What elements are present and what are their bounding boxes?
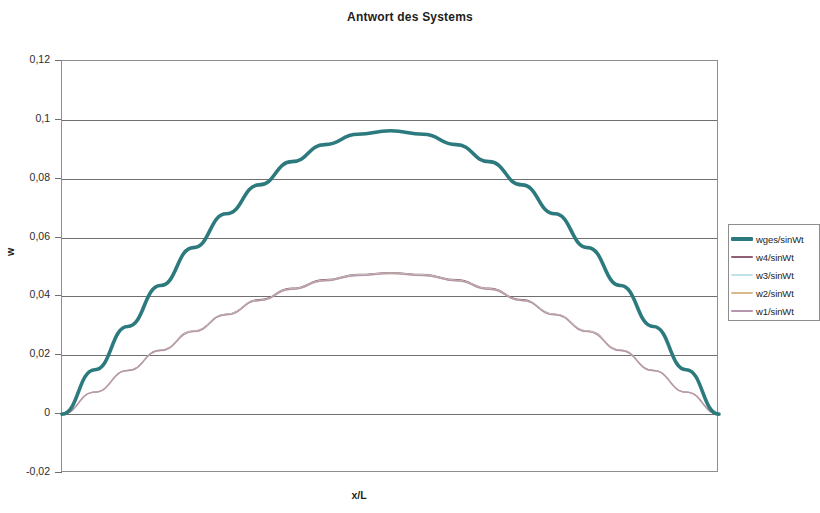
legend-label: w2/sinWt bbox=[756, 288, 794, 299]
y-axis-tick-label: 0,08 bbox=[2, 171, 50, 183]
legend-color-swatch bbox=[731, 310, 753, 312]
y-axis-tick bbox=[55, 472, 62, 473]
legend-color-swatch bbox=[731, 237, 753, 240]
series-line bbox=[62, 273, 719, 415]
y-axis-tick-label: 0,12 bbox=[2, 53, 50, 65]
chart-container: Antwort des Systems w x/L 0,120,10,080,0… bbox=[0, 0, 820, 513]
legend-label: w4/sinWt bbox=[756, 252, 794, 263]
legend-item[interactable]: w2/sinWt bbox=[731, 284, 819, 302]
legend-label: w1/sinWt bbox=[756, 306, 794, 317]
legend-label: wges/sinWt bbox=[756, 234, 804, 245]
legend-item[interactable]: wges/sinWt bbox=[731, 230, 819, 248]
y-axis-tick-label: 0,06 bbox=[2, 230, 50, 242]
y-axis-tick-label: 0,02 bbox=[2, 347, 50, 359]
legend-label: w3/sinWt bbox=[756, 270, 794, 281]
series-line bbox=[62, 274, 719, 414]
legend-color-swatch bbox=[731, 256, 753, 258]
y-axis-tick-label: 0,04 bbox=[2, 288, 50, 300]
y-axis-tick-label: 0 bbox=[2, 406, 50, 418]
legend-color-swatch bbox=[731, 274, 753, 276]
y-axis-tick-label: 0,1 bbox=[2, 112, 50, 124]
y-axis-title: w bbox=[4, 248, 16, 256]
y-axis-tick-label: -0,02 bbox=[2, 465, 50, 477]
series-curves bbox=[62, 61, 719, 473]
legend-item[interactable]: w1/sinWt bbox=[731, 302, 819, 320]
series-line bbox=[62, 273, 719, 414]
chart-title: Antwort des Systems bbox=[0, 10, 820, 24]
series-line bbox=[62, 273, 719, 414]
legend-item[interactable]: w3/sinWt bbox=[731, 266, 819, 284]
plot-area bbox=[61, 60, 718, 472]
x-axis-title: x/L bbox=[0, 489, 718, 501]
chart-legend: wges/sinWtw4/sinWtw3/sinWtw2/sinWtw1/sin… bbox=[728, 224, 820, 321]
legend-item[interactable]: w4/sinWt bbox=[731, 248, 819, 266]
legend-color-swatch bbox=[731, 292, 753, 294]
